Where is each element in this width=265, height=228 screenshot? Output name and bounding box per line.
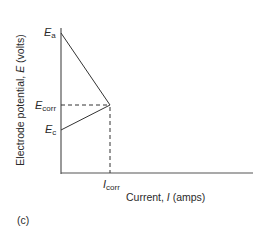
ea-subscript: a	[51, 31, 55, 40]
ecorr-label: Ecorr	[35, 100, 56, 113]
cathodic-polarization-line	[61, 105, 110, 130]
x-axis-label-suffix: (amps)	[170, 191, 206, 203]
y-axis-label-suffix: (volts)	[14, 34, 26, 66]
icorr-subscript: corr	[106, 183, 120, 192]
anodic-polarization-line	[61, 33, 110, 105]
ea-label: Ea	[44, 27, 56, 40]
panel-label: (c)	[17, 214, 29, 226]
y-axis-label-prefix: Electrode potential,	[14, 73, 26, 166]
ec-subscript: c	[52, 128, 56, 137]
ec-label: Ec	[45, 124, 56, 137]
ecorr-subscript: corr	[42, 104, 56, 113]
y-axis-label-symbol: E	[14, 66, 26, 73]
x-axis-label: Current, I (amps)	[126, 191, 205, 203]
y-axis-label: Electrode potential, E (volts)	[14, 34, 26, 165]
icorr-label: Icorr	[103, 179, 120, 192]
x-axis-label-prefix: Current,	[126, 191, 167, 203]
